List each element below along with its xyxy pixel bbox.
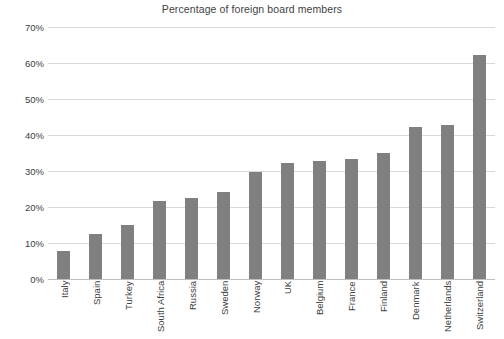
y-axis-tick-label: 50% xyxy=(0,94,44,105)
bar xyxy=(441,125,454,279)
bar xyxy=(121,225,134,279)
bar xyxy=(281,163,294,279)
bars-layer xyxy=(48,27,495,279)
bar xyxy=(345,159,358,279)
bar xyxy=(473,55,486,279)
x-axis-tick-label: South Africa xyxy=(154,281,167,337)
y-axis-tick-label: 20% xyxy=(0,202,44,213)
bar xyxy=(249,172,262,279)
x-axis-tick-label: Denmark xyxy=(409,281,422,337)
bar xyxy=(377,153,390,279)
bar xyxy=(57,251,70,279)
x-axis-tick-label: Sweden xyxy=(218,281,231,337)
x-axis-tick-label: Russia xyxy=(186,281,199,337)
x-axis-tick-label: Finland xyxy=(377,281,390,337)
bar xyxy=(217,192,230,279)
bar xyxy=(89,234,102,279)
x-axis-tick-label: France xyxy=(345,281,358,337)
y-axis-tick-label: 10% xyxy=(0,238,44,249)
x-axis: ItalySpainTurkeySouth AfricaRussiaSweden… xyxy=(48,281,495,339)
x-axis-tick-label: UK xyxy=(281,281,294,337)
y-axis-tick-label: 30% xyxy=(0,166,44,177)
y-axis-tick-label: 40% xyxy=(0,130,44,141)
y-axis-tick-label: 60% xyxy=(0,58,44,69)
bar xyxy=(409,127,422,279)
x-axis-tick-label: Belgium xyxy=(313,281,326,337)
x-axis-tick-label: Spain xyxy=(90,281,103,337)
x-axis-tick-label: Italy xyxy=(58,281,71,337)
x-axis-tick-label: Norway xyxy=(250,281,263,337)
y-axis-tick-label: 70% xyxy=(0,22,44,33)
gridline xyxy=(48,279,495,280)
bar-chart: Percentage of foreign board members 0%10… xyxy=(0,0,504,339)
bar xyxy=(153,201,166,279)
bar xyxy=(313,161,326,279)
bar xyxy=(185,198,198,279)
x-axis-tick-label: Netherlands xyxy=(441,281,454,337)
y-axis: 0%10%20%30%40%50%60%70% xyxy=(0,27,44,279)
chart-title: Percentage of foreign board members xyxy=(0,3,504,15)
x-axis-tick-label: Switzerland xyxy=(473,281,486,337)
x-axis-tick-label: Turkey xyxy=(122,281,135,337)
y-axis-tick-label: 0% xyxy=(0,274,44,285)
